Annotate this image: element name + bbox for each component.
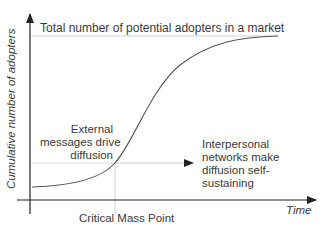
left-annotation-line: messages drive: [40, 136, 113, 149]
y-axis-label: Cumulative number of adopters: [5, 39, 17, 189]
right-annotation-line: networks make: [202, 151, 279, 164]
right-annotation: Interpersonal networks make diffusion se…: [202, 138, 279, 190]
right-annotation-line: sustaining: [202, 177, 279, 190]
left-annotation-line: External: [40, 123, 113, 136]
ceiling-label: Total number of potential adopters in a …: [40, 22, 284, 35]
right-annotation-line: diffusion self-: [202, 164, 279, 177]
left-annotation-line: diffusion: [40, 149, 113, 162]
left-annotation: External messages drive diffusion: [40, 123, 113, 162]
right-annotation-line: Interpersonal: [202, 138, 279, 151]
x-axis-label: Time: [286, 204, 311, 217]
critical-mass-label: Critical Mass Point: [79, 212, 174, 225]
